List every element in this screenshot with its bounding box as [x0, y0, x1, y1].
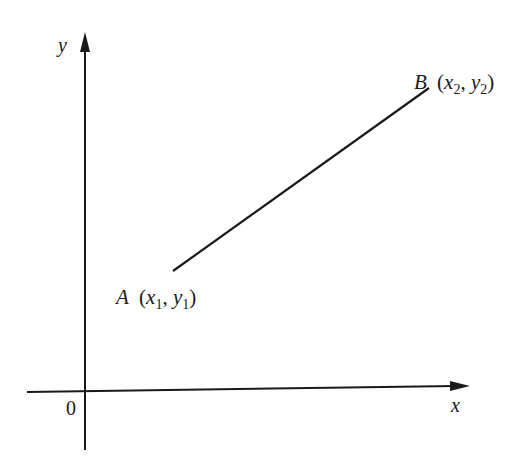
- y-axis-arrow-icon: [80, 32, 90, 52]
- point-b-label: B (x2, y2): [414, 70, 494, 97]
- point-a-name: A: [114, 285, 129, 309]
- origin-label: 0: [66, 397, 76, 419]
- point-b-x-sub: 2: [453, 82, 460, 97]
- x-axis-label: x: [450, 394, 460, 416]
- point-a-y-sub: 1: [182, 297, 189, 312]
- point-a-x-sub: 1: [155, 297, 162, 312]
- point-b-name: B: [414, 70, 427, 94]
- y-axis-label: y: [56, 34, 67, 57]
- x-axis-arrow-icon: [450, 381, 470, 391]
- point-b-y-sub: 2: [480, 82, 487, 97]
- segment-ab: [173, 88, 429, 271]
- point-a-label: A (x1, y1): [114, 285, 196, 312]
- x-axis: [27, 386, 456, 392]
- coordinate-diagram: y x 0 A (x1, y1) B (x2, y2): [0, 0, 522, 473]
